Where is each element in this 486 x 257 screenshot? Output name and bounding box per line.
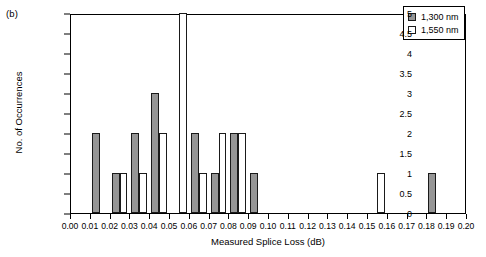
y-axis: No. of Occurrences xyxy=(0,0,70,215)
x-tick-label: 0.13 xyxy=(319,221,336,231)
x-tick-mark xyxy=(308,214,309,219)
y-tick-mark xyxy=(64,194,70,195)
y-tick-mark xyxy=(64,74,70,75)
x-tick-mark xyxy=(149,214,150,219)
x-tick-label: 0.12 xyxy=(299,221,316,231)
y-axis-title: No. of Occurrences xyxy=(13,38,24,188)
bar-1-550-nm-0.02-0.03 xyxy=(120,173,128,213)
x-tick-mark xyxy=(110,214,111,219)
x-tick-mark xyxy=(268,214,269,219)
legend-label-1550nm: 1,550 nm xyxy=(421,25,459,35)
x-tick-label: 0.09 xyxy=(240,221,257,231)
y-tick-label: 3 xyxy=(407,89,412,99)
legend-item-1300nm: 1,300 nm xyxy=(408,10,459,23)
bar-1-550-nm-0.04-0.05 xyxy=(159,133,167,213)
y-tick-label: 0.5 xyxy=(399,189,412,199)
x-tick-mark xyxy=(248,214,249,219)
x-tick-label: 0.11 xyxy=(280,221,296,231)
bar-1-300-nm-0.06-0.07 xyxy=(191,133,199,213)
bar-1-550-nm-0.07-0.08 xyxy=(219,133,227,213)
bar-1-300-nm-0.18-0.19 xyxy=(428,173,436,213)
y-tick-label: 5 xyxy=(407,9,412,19)
x-tick-mark xyxy=(129,214,130,219)
bar-1-550-nm-0.05-0.06 xyxy=(179,13,187,213)
x-tick-label: 0.07 xyxy=(200,221,217,231)
y-tick-label: 4.5 xyxy=(399,29,412,39)
x-tick-label: 0.02 xyxy=(101,221,118,231)
x-tick-label: 0.06 xyxy=(180,221,197,231)
bar-1-300-nm-0.04-0.05 xyxy=(151,93,159,213)
y-tick-label: 3.5 xyxy=(399,69,412,79)
x-axis-title: Measured Splice Loss (dB) xyxy=(70,236,466,247)
x-tick-mark xyxy=(407,214,408,219)
x-tick-label: 0.19 xyxy=(438,221,455,231)
y-tick-label: 2.5 xyxy=(399,109,412,119)
histogram-figure: (b) No. of Occurrences Measured Splice L… xyxy=(0,0,486,257)
bar-1-300-nm-0.09-0.10 xyxy=(250,173,258,213)
x-tick-mark xyxy=(209,214,210,219)
y-tick-label: 1 xyxy=(407,169,412,179)
bar-1-550-nm-0.08-0.09 xyxy=(238,133,246,213)
x-tick-label: 0.01 xyxy=(81,221,98,231)
bar-1-300-nm-0.01-0.02 xyxy=(92,133,100,213)
bar-1-300-nm-0.02-0.03 xyxy=(112,173,120,213)
bar-1-550-nm-0.06-0.07 xyxy=(199,173,207,213)
legend-item-1550nm: 1,550 nm xyxy=(408,23,459,36)
bar-1-300-nm-0.08-0.09 xyxy=(230,133,238,213)
y-tick-mark xyxy=(64,34,70,35)
x-tick-mark xyxy=(367,214,368,219)
x-tick-mark xyxy=(446,214,447,219)
x-tick-label: 0.14 xyxy=(339,221,356,231)
y-tick-label: 4 xyxy=(407,49,412,59)
x-tick-mark xyxy=(90,214,91,219)
x-tick-label: 0.16 xyxy=(378,221,395,231)
x-tick-mark xyxy=(70,214,71,219)
x-tick-label: 0.15 xyxy=(359,221,376,231)
x-tick-mark xyxy=(387,214,388,219)
x-tick-mark xyxy=(327,214,328,219)
y-tick-mark xyxy=(64,134,70,135)
x-tick-mark xyxy=(189,214,190,219)
bar-1-550-nm-0.15-0.16 xyxy=(377,173,385,213)
bar-1-550-nm-0.03-0.04 xyxy=(139,173,147,213)
y-tick-mark xyxy=(64,54,70,55)
x-tick-mark xyxy=(288,214,289,219)
bar-1-300-nm-0.07-0.08 xyxy=(211,173,219,213)
x-tick-mark xyxy=(466,214,467,219)
x-tick-label: 0.05 xyxy=(161,221,178,231)
x-tick-mark xyxy=(228,214,229,219)
x-tick-label: 0.03 xyxy=(121,221,138,231)
y-tick-label: 0 xyxy=(407,209,412,219)
y-tick-label: 1.5 xyxy=(399,149,412,159)
y-tick-mark xyxy=(64,14,70,15)
x-tick-label: 0.17 xyxy=(398,221,415,231)
x-tick-label: 0.18 xyxy=(418,221,435,231)
x-tick-mark xyxy=(169,214,170,219)
x-tick-mark xyxy=(347,214,348,219)
x-tick-label: 0.10 xyxy=(260,221,277,231)
x-tick-label: 0.20 xyxy=(458,221,475,231)
legend-label-1300nm: 1,300 nm xyxy=(421,12,459,22)
y-tick-label: 2 xyxy=(407,129,412,139)
x-tick-label: 0.08 xyxy=(220,221,237,231)
legend: 1,300 nm 1,550 nm xyxy=(403,6,465,40)
bar-1-300-nm-0.03-0.04 xyxy=(131,133,139,213)
x-tick-mark xyxy=(426,214,427,219)
y-tick-mark xyxy=(64,174,70,175)
y-tick-mark xyxy=(64,94,70,95)
y-tick-mark xyxy=(64,114,70,115)
x-tick-label: 0.00 xyxy=(62,221,79,231)
y-tick-mark xyxy=(64,154,70,155)
x-tick-label: 0.04 xyxy=(141,221,158,231)
